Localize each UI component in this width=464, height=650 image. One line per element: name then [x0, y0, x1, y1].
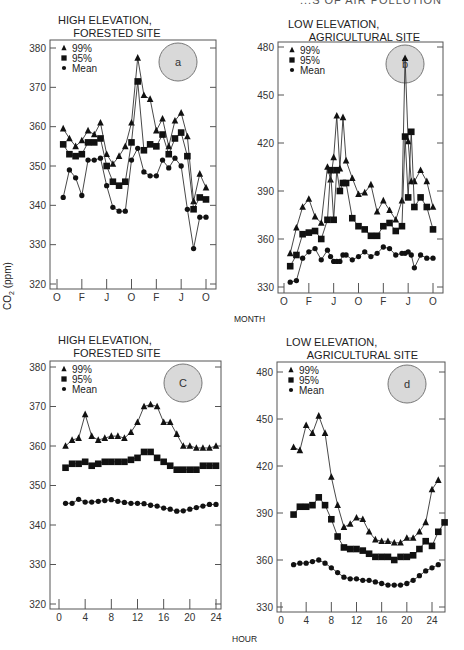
circle-marker — [79, 193, 84, 198]
circle-marker — [319, 257, 324, 262]
circle-marker — [148, 503, 153, 508]
circle-marker — [436, 562, 441, 567]
square-marker — [172, 135, 179, 142]
y-tick-label: 450 — [257, 90, 274, 101]
square-marker — [328, 516, 335, 523]
series-line — [290, 132, 433, 266]
legend-entry: Mean — [72, 63, 97, 74]
circle-marker — [135, 501, 140, 506]
legend-entry: Mean — [72, 384, 97, 395]
circle-marker — [203, 214, 208, 219]
square-marker — [366, 550, 373, 557]
triangle-marker — [173, 430, 180, 437]
square-marker — [408, 129, 415, 136]
series-line — [66, 499, 216, 511]
y-tick-label: 350 — [29, 161, 46, 172]
circle-marker — [329, 565, 334, 570]
square-marker — [293, 252, 300, 259]
circle-marker — [316, 557, 321, 562]
square-marker — [330, 217, 337, 224]
square-marker — [134, 455, 141, 462]
square-marker — [75, 460, 82, 467]
triangle-marker — [134, 419, 141, 426]
square-marker — [429, 543, 436, 550]
triangle-marker — [349, 174, 356, 181]
chart-panel-b: 330360390420450480OFJOFJOb99%95%Mean — [257, 42, 443, 308]
circle-marker — [418, 252, 423, 257]
y-tick-label: 320 — [29, 279, 46, 290]
x-tick-label: J — [179, 292, 184, 303]
circle-marker — [289, 388, 293, 392]
triangle-marker — [184, 133, 191, 140]
square-marker — [153, 143, 160, 150]
series-line — [294, 560, 439, 585]
square-marker — [206, 462, 213, 469]
circle-marker — [412, 265, 417, 270]
square-marker — [391, 557, 398, 564]
square-marker — [88, 462, 95, 469]
y-tick-label: 480 — [257, 42, 274, 53]
square-marker — [121, 459, 128, 466]
x-tick-label: 8 — [329, 615, 335, 626]
circle-marker — [76, 497, 81, 502]
circle-marker — [98, 155, 103, 160]
square-marker — [122, 178, 129, 185]
square-marker — [128, 457, 135, 464]
y-tick-label: 360 — [29, 441, 46, 452]
triangle-marker — [167, 419, 174, 426]
y-tick-label: 390 — [256, 508, 273, 519]
triangle-marker — [153, 127, 160, 134]
triangle-marker — [333, 112, 340, 119]
x-tick-label: F — [79, 292, 85, 303]
square-marker — [372, 554, 379, 561]
circle-marker — [356, 254, 361, 259]
triangle-marker — [159, 115, 166, 122]
square-marker — [167, 462, 174, 469]
square-marker — [193, 466, 200, 473]
triangle-marker — [200, 444, 207, 451]
circle-marker — [423, 568, 428, 573]
circle-marker — [288, 280, 293, 285]
x-tick-label: O — [429, 296, 437, 307]
circle-marker — [373, 579, 378, 584]
square-marker — [441, 519, 448, 526]
circle-marker — [181, 508, 186, 513]
square-marker — [128, 139, 135, 146]
circle-marker — [116, 209, 121, 214]
circle-marker — [168, 507, 173, 512]
circle-marker — [387, 246, 392, 251]
square-marker — [60, 141, 67, 148]
x-tick-label: 20 — [401, 615, 413, 626]
square-marker — [349, 215, 356, 222]
y-tick-label: 360 — [29, 121, 46, 132]
circle-marker — [197, 214, 202, 219]
triangle-marker — [422, 519, 429, 526]
circle-marker — [62, 387, 66, 391]
square-marker — [368, 233, 375, 240]
square-marker — [404, 554, 411, 561]
circle-marker — [337, 259, 342, 264]
circle-marker — [335, 570, 340, 575]
x-tick-label: 16 — [158, 612, 170, 623]
triangle-marker — [297, 447, 304, 454]
circle-marker — [368, 254, 373, 259]
circle-marker — [129, 157, 134, 162]
circle-marker — [67, 167, 72, 172]
triangle-marker — [322, 429, 329, 436]
x-tick-label: J — [104, 292, 109, 303]
square-marker — [66, 151, 73, 158]
circle-marker — [85, 157, 90, 162]
triangle-marker — [75, 434, 82, 441]
circle-marker — [207, 502, 212, 507]
circle-marker — [381, 244, 386, 249]
square-marker — [397, 554, 404, 561]
triangle-marker — [303, 421, 310, 428]
circle-marker — [354, 576, 359, 581]
triangle-marker — [160, 419, 167, 426]
square-marker — [435, 529, 442, 536]
triangle-marker — [147, 95, 154, 102]
triangle-marker — [423, 178, 430, 185]
x-tick-label: 8 — [109, 612, 115, 623]
square-marker — [343, 180, 350, 187]
y-tick-label: 330 — [256, 602, 273, 613]
